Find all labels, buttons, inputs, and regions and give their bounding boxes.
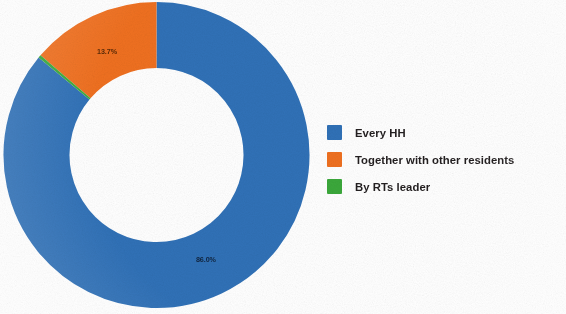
donut-slice-label-together-with-other-residents: 13.7%: [97, 47, 118, 56]
legend-item-together-with-other-residents[interactable]: Together with other residents: [327, 146, 565, 173]
legend-item-every-hh[interactable]: Every HH: [327, 119, 565, 146]
donut-slice-by-rts-leader[interactable]: [64, 77, 65, 79]
donut-chart-svg: 13.7% 86.0%: [2, 1, 311, 314]
legend-item-by-rts-leader[interactable]: By RTs leader: [327, 173, 565, 200]
legend-swatch-by-rts-leader: [327, 179, 342, 194]
donut-chart-plot-area: 13.7% 86.0%: [2, 1, 311, 314]
donut-chart-figure: 13.7% 86.0% Every HH Together with other…: [0, 0, 566, 314]
legend-swatch-together-with-other-residents: [327, 152, 342, 167]
legend-label-every-hh: Every HH: [355, 127, 406, 139]
donut-slice-label-every-hh: 86.0%: [196, 255, 217, 264]
legend-label-by-rts-leader: By RTs leader: [355, 181, 430, 193]
legend-label-together-with-other-residents: Together with other residents: [355, 154, 514, 166]
donut-slices: [37, 35, 277, 275]
legend-swatch-every-hh: [327, 125, 342, 140]
chart-legend: Every HH Together with other residents B…: [327, 119, 565, 200]
